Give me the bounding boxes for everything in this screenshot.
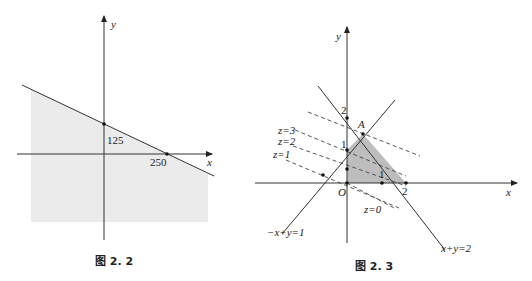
y-intercept-label: 125 xyxy=(107,134,124,146)
point-x1 xyxy=(380,181,384,185)
x-intercept-label: 250 xyxy=(150,156,167,168)
line-label-sum: x+y=2 xyxy=(440,242,472,254)
feasible-region xyxy=(347,134,406,183)
tick-x1-label: 1 xyxy=(379,168,385,180)
tick-y1-label: 1 xyxy=(341,138,347,150)
point-y-half xyxy=(345,167,349,171)
figure-2-2: y x 125 250 图 2. 2 xyxy=(17,16,214,268)
point-A-label: A xyxy=(357,118,365,130)
level-label-z1: z=1 xyxy=(272,148,290,160)
figures-canvas: y x 125 250 图 2. 2 y xyxy=(0,0,532,281)
point-origin xyxy=(345,181,349,185)
figure-caption: 图 2. 3 xyxy=(355,260,393,273)
figure-2-3: y x O A 2 1 1 2 z=3 z=2 z=1 z=0 −x+y=1 x… xyxy=(255,27,517,273)
y-intercept-point xyxy=(102,122,106,126)
point-A xyxy=(361,132,365,136)
figure-caption: 图 2. 2 xyxy=(95,255,133,268)
point-y2 xyxy=(345,116,349,120)
point-neg-x-intercept xyxy=(321,173,325,177)
x-axis-label: x xyxy=(505,186,511,198)
y-axis-label: y xyxy=(110,18,116,30)
level-label-z0: z=0 xyxy=(363,203,382,215)
tick-y2-label: 2 xyxy=(341,104,347,116)
level-label-z2: z=2 xyxy=(277,135,296,147)
y-axis-label: y xyxy=(335,30,341,42)
origin-label: O xyxy=(338,186,346,198)
x-axis-label: x xyxy=(206,156,212,168)
tick-x2-label: 2 xyxy=(402,185,408,197)
feasible-region xyxy=(31,89,208,222)
line-label-diff: −x+y=1 xyxy=(267,226,305,238)
